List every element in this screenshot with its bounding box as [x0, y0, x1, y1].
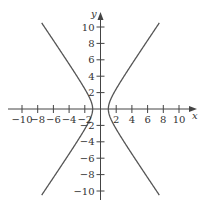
x-tick-label: 4 — [129, 114, 135, 125]
y-tick-label: 2 — [88, 87, 94, 98]
x-tick-label: 10 — [173, 114, 186, 125]
y-axis-arrow-icon — [98, 12, 104, 20]
axes — [8, 12, 197, 200]
y-tick-label: −10 — [73, 186, 94, 197]
x-tick-label: 6 — [144, 114, 150, 125]
y-tick-label: −6 — [80, 153, 95, 164]
x-tick-label: −8 — [30, 114, 45, 125]
hyperbola-chart: −10−8−6−4−2246810108642−2−4−6−8−10xy — [0, 0, 202, 206]
x-tick-label: −6 — [46, 114, 61, 125]
y-tick-label: 8 — [88, 38, 94, 49]
y-tick-label: −4 — [80, 136, 95, 147]
x-tick-label: −4 — [62, 114, 77, 125]
tick-labels: −10−8−6−4−2246810108642−2−4−6−8−10xy — [11, 8, 198, 197]
y-axis-label: y — [90, 8, 97, 19]
y-tick-label: 6 — [88, 54, 94, 65]
x-tick-label: 8 — [160, 114, 166, 125]
x-tick-label: 2 — [113, 114, 119, 125]
x-axis-label: x — [192, 110, 198, 121]
y-tick-label: 4 — [88, 71, 94, 82]
y-tick-label: −8 — [80, 169, 95, 180]
y-tick-label: 10 — [82, 22, 95, 33]
y-tick-label: −2 — [80, 120, 95, 131]
